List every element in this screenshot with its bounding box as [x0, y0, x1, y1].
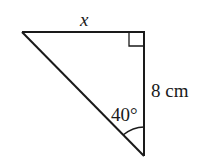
label-x: x	[79, 9, 89, 30]
triangle	[22, 31, 145, 156]
right-angle-marker	[129, 32, 144, 46]
triangle-diagram: x 8 cm 40°	[0, 0, 214, 161]
angle-arc	[123, 127, 144, 135]
label-angle: 40°	[111, 104, 138, 125]
hypotenuse	[22, 32, 144, 156]
label-side-length: 8 cm	[151, 80, 189, 101]
